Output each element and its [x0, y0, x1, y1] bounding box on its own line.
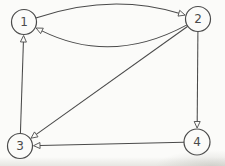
- graph-figure: 1234: [0, 0, 225, 166]
- edge-4-3: [34, 142, 185, 148]
- node-label: 3: [16, 139, 24, 153]
- edge-line: [40, 142, 184, 145]
- edge-2-3: [31, 26, 188, 138]
- edge-1-2: [36, 4, 185, 18]
- edge-line: [20, 42, 23, 134]
- edge-2-4: [194, 32, 200, 129]
- node-4: 4: [184, 129, 210, 155]
- graph-svg: 1234: [0, 0, 225, 166]
- arrowhead: [178, 10, 185, 16]
- node-label: 1: [20, 15, 28, 29]
- arrowhead: [36, 28, 43, 34]
- edge-line: [42, 25, 187, 47]
- node-3: 3: [8, 134, 33, 159]
- node-label: 2: [194, 12, 202, 26]
- arrowhead: [194, 122, 200, 129]
- arrowhead: [20, 36, 26, 43]
- edge-3-1: [20, 36, 26, 134]
- edge-line: [197, 32, 198, 122]
- node-label: 4: [193, 135, 201, 149]
- node-2: 2: [186, 7, 211, 32]
- edge-line: [36, 26, 188, 134]
- arrowhead: [34, 143, 41, 149]
- arrowhead: [31, 132, 38, 138]
- node-1: 1: [12, 10, 37, 35]
- edge-line: [36, 4, 179, 18]
